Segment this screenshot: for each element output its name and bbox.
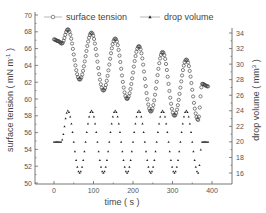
open-circle-marker-icon [51, 15, 55, 19]
y-right-tick-label: 32 [236, 45, 244, 52]
y-right-axis-title: drop volume ( mm3 ) [251, 59, 261, 140]
y-left-tick-label: 64 [24, 62, 32, 69]
plot-area [52, 28, 209, 174]
legend-label-surface-tension: surface tension [66, 12, 127, 22]
y-left-axis-title: surface tension ( mN m-1 ) [5, 48, 15, 152]
series-surface-tension [52, 28, 209, 122]
x-tick-label: 300 [167, 187, 179, 194]
y-right-tick-label: 30 [236, 61, 244, 68]
y-left-tick-label: 60 [24, 96, 32, 103]
y-left-tick-label: 62 [24, 79, 32, 86]
y-right-tick-label: 34 [236, 30, 244, 37]
y-left-tick-label: 58 [24, 112, 32, 119]
y-right-tick-label: 18 [236, 154, 244, 161]
legend-label-drop-volume: drop volume [164, 12, 214, 22]
y-left-tick-label: 70 [24, 12, 32, 19]
x-axis-title: time ( s ) [105, 197, 140, 207]
legend-item-drop-volume: drop volume [140, 12, 214, 22]
y-right-tick-label: 16 [236, 170, 244, 177]
y-right-tick-label: 20 [236, 138, 244, 145]
series-drop-volume [53, 110, 209, 174]
y-right-tick-label: 28 [236, 76, 244, 83]
x-ticks: 0100200300400 [52, 181, 218, 194]
svg-text:drop volume ( mm3 ): drop volume ( mm3 ) [251, 59, 261, 140]
y-left-ticks: 5052545658606264666870 [24, 12, 38, 187]
legend-item-surface-tension: surface tension [44, 12, 127, 22]
x-tick-label: 100 [88, 187, 100, 194]
y-left-tick-label: 50 [24, 180, 32, 187]
y-right-tick-label: 24 [236, 107, 244, 114]
y-right-tick-label: 26 [236, 92, 244, 99]
x-tick-label: 400 [206, 187, 218, 194]
chart: 0100200300400 5052545658606264666870 161… [0, 0, 266, 213]
svg-text:surface tension ( mN m-1 ): surface tension ( mN m-1 ) [5, 48, 15, 152]
y-left-tick-label: 52 [24, 163, 32, 170]
y-left-tick-label: 66 [24, 45, 32, 52]
y-left-tick-label: 68 [24, 28, 32, 35]
legend: surface tension drop volume [44, 12, 214, 22]
y-right-tick-label: 22 [236, 123, 244, 130]
x-tick-label: 200 [127, 187, 139, 194]
y-left-tick-label: 54 [24, 146, 32, 153]
y-right-ticks: 16182022242628303234 [229, 30, 244, 177]
x-tick-label: 0 [52, 187, 56, 194]
y-left-tick-label: 56 [24, 129, 32, 136]
